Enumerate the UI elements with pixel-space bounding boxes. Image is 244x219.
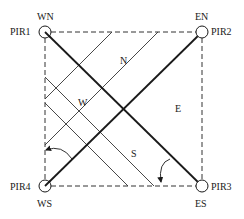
rotation-arrow-bottom [160,159,170,182]
pir2-label: PIR2 [211,26,232,37]
corner-label-ws: WS [37,198,52,209]
pir1-label: PIR1 [10,26,31,37]
region-label-east: E [175,103,181,114]
region-label-north: N [120,55,127,66]
corner-label-es: ES [195,198,207,209]
pir3-label: PIR3 [211,181,232,192]
region-label-south: S [131,148,137,159]
corner-label-wn: WN [37,11,54,22]
region-label-west: W [78,97,88,108]
pir2-sensor-icon [196,26,208,38]
pir-sensor-region-diagram: PIR1 PIR2 PIR3 PIR4 WN EN ES WS N W E S [0,0,244,219]
corner-label-en: EN [195,11,208,22]
rotation-arrow-left [46,148,72,159]
pir4-label: PIR4 [10,181,31,192]
pir3-sensor-icon [196,180,208,192]
